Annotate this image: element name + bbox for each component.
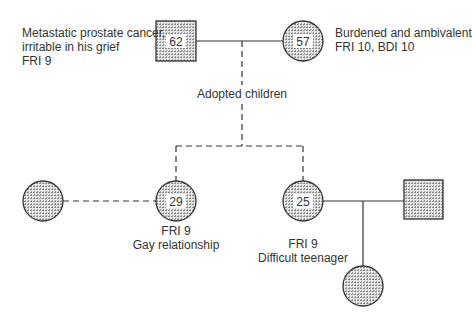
child-1-note-line: Gay relationship (121, 238, 231, 252)
father-note-line: FRI 9 (22, 54, 165, 68)
partner-1-circle (23, 181, 63, 221)
child-2-notes: FRI 9 Difficult teenager (248, 237, 358, 265)
child-1-age: 29 (169, 195, 183, 209)
mother-age: 57 (296, 35, 310, 49)
grandchild-circle (343, 266, 383, 306)
child-1-circle: 29 (156, 181, 196, 221)
partner-2-square (404, 180, 443, 219)
child-2-circle: 25 (283, 181, 323, 221)
mother-note-line: Burdened and ambivalent (335, 26, 472, 40)
child-1-note-line: FRI 9 (121, 224, 231, 238)
father-age: 62 (169, 35, 183, 49)
child-2-age: 25 (296, 195, 310, 209)
mother-note-line: FRI 10, BDI 10 (335, 40, 472, 54)
father-note-line: Metastatic prostate cancer, (22, 26, 165, 40)
father-notes: Metastatic prostate cancer, irritable in… (22, 26, 165, 68)
child-1-notes: FRI 9 Gay relationship (121, 224, 231, 252)
child-2-note-line: Difficult teenager (248, 251, 358, 265)
mother-notes: Burdened and ambivalent FRI 10, BDI 10 (335, 26, 472, 54)
adoption-label: Adopted children (192, 87, 292, 101)
father-note-line: irritable in his grief (22, 40, 165, 54)
child-2-note-line: FRI 9 (248, 237, 358, 251)
mother-circle: 57 (283, 21, 323, 61)
